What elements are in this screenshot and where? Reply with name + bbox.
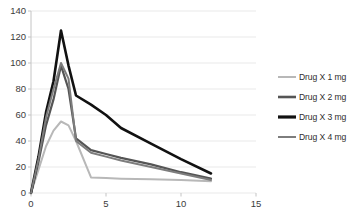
legend-swatch-icon xyxy=(278,112,296,122)
x-tick-labels-group: 051015 xyxy=(28,198,261,209)
chart-container: 020406080100120140 051015 Drug X 1 mg Dr… xyxy=(0,0,352,218)
y-tick-labels-group: 020406080100120140 xyxy=(10,5,26,198)
legend-item-label: Drug X 3 mg xyxy=(299,112,346,122)
y-tick-label: 0 xyxy=(21,187,26,198)
x-tick-label: 5 xyxy=(103,198,108,209)
series-line xyxy=(31,31,211,194)
y-tick-label: 120 xyxy=(10,31,26,42)
legend-item: Drug X 2 mg xyxy=(278,88,352,105)
legend-item-label: Drug X 4 mg xyxy=(299,132,346,142)
x-tick-label: 0 xyxy=(28,198,33,209)
y-tick-label: 20 xyxy=(15,161,26,172)
legend-item-label: Drug X 2 mg xyxy=(299,92,346,102)
y-tick-label: 40 xyxy=(15,135,26,146)
legend-item: Drug X 4 mg xyxy=(278,128,352,145)
y-tick-label: 100 xyxy=(10,57,26,68)
x-tick-label: 10 xyxy=(176,198,187,209)
legend-item: Drug X 1 mg xyxy=(278,68,352,85)
legend-swatch-icon xyxy=(278,132,296,142)
data-series-group xyxy=(31,31,211,194)
legend-swatch-icon xyxy=(278,72,296,82)
x-tick-label: 15 xyxy=(251,198,262,209)
chart-legend: Drug X 1 mg Drug X 2 mg Drug X 3 mg Drug… xyxy=(278,68,352,148)
legend-swatch-icon xyxy=(278,92,296,102)
y-axis-line-group xyxy=(28,11,31,193)
y-tick-label: 80 xyxy=(15,83,26,94)
y-tick-label: 60 xyxy=(15,109,26,120)
legend-item: Drug X 3 mg xyxy=(278,108,352,125)
legend-item-label: Drug X 1 mg xyxy=(299,72,346,82)
y-tick-label: 140 xyxy=(10,5,26,16)
x-tick-marks-group xyxy=(31,193,256,197)
